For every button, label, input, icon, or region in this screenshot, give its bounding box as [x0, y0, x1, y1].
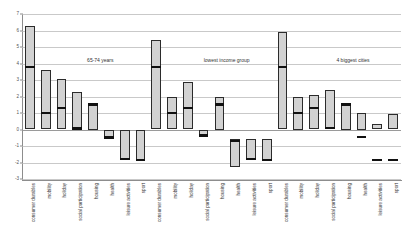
range-bar — [25, 26, 35, 130]
median-marker — [151, 66, 161, 69]
median-marker — [199, 134, 209, 137]
gridline-4: 4 — [22, 64, 401, 65]
y-axis-tick-mark — [20, 146, 23, 147]
gridline--2: -2 — [22, 163, 401, 164]
median-marker — [357, 136, 367, 139]
x-axis-line — [22, 180, 402, 181]
range-bar — [151, 40, 161, 129]
x-axis-category-label: consumer durables — [285, 183, 290, 222]
range-bar — [230, 139, 240, 167]
y-axis-tick-mark — [20, 129, 23, 130]
y-axis-tick-mark — [20, 30, 23, 31]
y-axis-tick-label: 2 — [16, 94, 19, 99]
x-axis-category-label: mobility — [48, 183, 53, 199]
x-axis-category-label: health — [111, 183, 116, 196]
range-bar — [309, 95, 319, 130]
y-axis-tick-label: -1 — [15, 144, 19, 149]
range-bar — [325, 90, 335, 130]
x-axis-category-label: mobility — [300, 183, 305, 199]
y-axis-tick-mark — [20, 63, 23, 64]
median-marker — [41, 112, 51, 115]
y-axis-tick-label: 3 — [16, 78, 19, 83]
x-axis-category-label: sport — [395, 183, 400, 193]
median-marker — [167, 112, 177, 115]
x-axis-category-label: consumer durables — [32, 183, 37, 222]
median-marker — [278, 66, 288, 69]
range-bar — [388, 114, 398, 130]
panel-title: lowest income group — [204, 58, 250, 63]
median-marker — [120, 158, 130, 161]
x-axis-category-label: leisure activities — [379, 183, 384, 215]
median-marker — [372, 159, 382, 162]
x-axis-category-label: holiday — [63, 183, 68, 198]
y-axis-tick-label: 1 — [16, 111, 19, 116]
gridline--3: -3 — [22, 179, 401, 180]
median-marker — [215, 103, 225, 106]
range-bar — [57, 79, 67, 129]
median-marker — [325, 127, 335, 130]
x-axis-category-label: leisure activities — [253, 183, 258, 215]
chart-container: 76543210-1-2-3 65-74 yearsconsumer durab… — [0, 0, 409, 244]
median-marker — [309, 107, 319, 110]
range-bar — [372, 124, 382, 130]
y-axis-tick-label: -2 — [15, 160, 19, 165]
median-marker — [388, 159, 398, 162]
panel-title: 4 biggest cities — [336, 58, 369, 63]
gridline--1: -1 — [22, 146, 401, 147]
x-axis-category-label: sport — [142, 183, 147, 193]
range-bar — [262, 139, 272, 160]
y-axis-tick-mark — [20, 47, 23, 48]
gridline-7: 7 — [22, 14, 401, 15]
range-bar — [72, 92, 82, 130]
y-axis-tick-mark — [20, 113, 23, 114]
x-axis-category-label: social participation — [206, 183, 211, 221]
y-axis-tick-mark — [20, 96, 23, 97]
x-axis-category-label: health — [364, 183, 369, 196]
y-axis-tick-label: 4 — [16, 61, 19, 66]
range-bar — [88, 105, 98, 130]
median-marker — [72, 127, 82, 130]
median-marker — [262, 159, 272, 162]
x-axis-category-label: housing — [95, 183, 100, 199]
x-axis-category-label: mobility — [174, 183, 179, 199]
y-axis-tick-label: 5 — [16, 45, 19, 50]
x-axis-category-label: holiday — [316, 183, 321, 198]
median-marker — [183, 107, 193, 110]
x-axis-category-label: social participation — [79, 183, 84, 221]
median-marker — [104, 136, 114, 139]
y-axis-tick-mark — [20, 179, 23, 180]
x-axis-category-label: holiday — [190, 183, 195, 198]
range-bar — [41, 70, 51, 129]
y-axis-tick-label: 0 — [16, 127, 19, 132]
x-axis-category-label: housing — [348, 183, 353, 199]
panel-title: 65-74 years — [87, 58, 113, 63]
median-marker — [88, 103, 98, 106]
x-axis-category-label: leisure activities — [127, 183, 132, 215]
median-marker — [136, 159, 146, 162]
y-axis-tick-mark — [20, 80, 23, 81]
x-axis-category-label: consumer durables — [158, 183, 163, 222]
x-axis-category-label: housing — [221, 183, 226, 199]
y-axis-tick-label: 6 — [16, 28, 19, 33]
x-axis-category-label: health — [237, 183, 242, 196]
y-axis-tick-label: 7 — [16, 12, 19, 17]
y-axis-tick-label: -3 — [15, 177, 19, 182]
y-axis-tick-mark — [20, 162, 23, 163]
range-bar — [136, 130, 146, 161]
median-marker — [341, 103, 351, 106]
range-bar — [357, 113, 367, 130]
range-bar — [278, 32, 288, 129]
median-marker — [246, 158, 256, 161]
gridline-6: 6 — [22, 31, 401, 32]
range-bar — [215, 97, 225, 130]
median-marker — [57, 107, 67, 110]
median-marker — [230, 140, 240, 143]
gridline-5: 5 — [22, 47, 401, 48]
range-bar — [120, 130, 130, 160]
plot-area: 76543210-1-2-3 — [22, 14, 401, 179]
x-axis-category-label: social participation — [332, 183, 337, 221]
y-axis-tick-mark — [20, 14, 23, 15]
gridline-3: 3 — [22, 80, 401, 81]
range-bar — [341, 105, 351, 130]
median-marker — [293, 112, 303, 115]
